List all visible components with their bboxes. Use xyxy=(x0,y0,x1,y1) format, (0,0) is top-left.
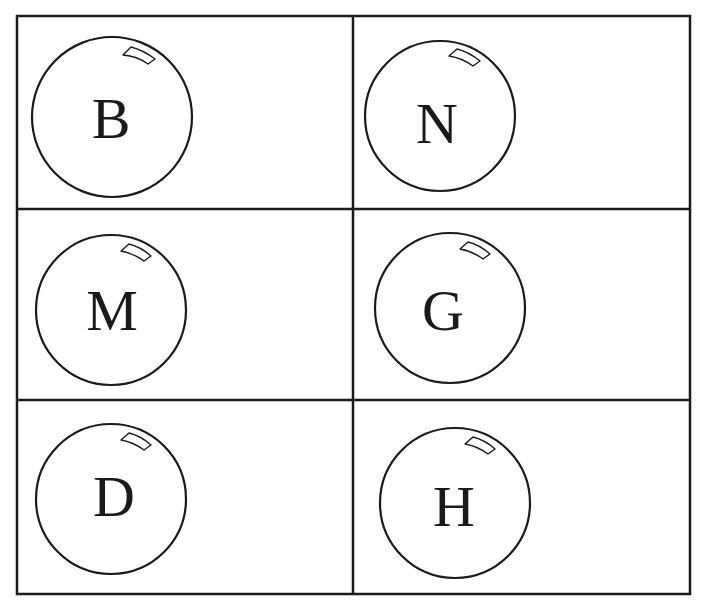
cell-letter: M xyxy=(86,278,138,343)
grid-cell-n: N xyxy=(365,41,515,191)
cell-letter: N xyxy=(416,91,458,156)
letter-bubble-grid: B N M G D H xyxy=(0,0,704,608)
cell-letter: H xyxy=(433,474,475,539)
grid-cell-h: H xyxy=(380,428,530,578)
grid-cell-b: B xyxy=(32,37,192,197)
grid-cell-m: M xyxy=(36,235,186,385)
grid-cell-g: G xyxy=(375,233,525,383)
grid-cell-d: D xyxy=(36,424,186,574)
cell-letter: G xyxy=(422,278,464,343)
cell-letter: D xyxy=(93,464,135,529)
cell-letter: B xyxy=(92,86,131,151)
